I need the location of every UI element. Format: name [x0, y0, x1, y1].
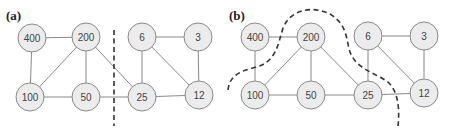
- node-label: 200: [303, 32, 320, 43]
- node-50: 50: [72, 83, 100, 111]
- node-label: 6: [139, 32, 145, 43]
- node-200: 200: [297, 23, 325, 51]
- node-label: 50: [305, 90, 317, 101]
- panel-label-b: (b): [229, 8, 245, 23]
- graph-partition-diagram: (a) 40020063100502512 (b) 40020063100502…: [0, 0, 453, 129]
- panel-a: (a) 40020063100502512: [6, 8, 213, 126]
- node-label: 25: [136, 92, 148, 103]
- node-100: 100: [241, 81, 269, 109]
- node-3: 3: [410, 22, 438, 50]
- node-label: 400: [24, 33, 41, 44]
- node-3: 3: [184, 23, 212, 51]
- node-50: 50: [297, 81, 325, 109]
- node-label: 50: [80, 92, 92, 103]
- node-label: 400: [247, 32, 264, 43]
- node-25: 25: [354, 81, 382, 109]
- node-label: 25: [362, 90, 374, 101]
- panel-label-a: (a): [6, 8, 21, 23]
- node-label: 3: [421, 31, 427, 42]
- node-label: 200: [78, 32, 95, 43]
- node-400: 400: [18, 24, 46, 52]
- node-12: 12: [410, 79, 438, 107]
- node-label: 3: [195, 32, 201, 43]
- node-400: 400: [241, 23, 269, 51]
- node-label: 12: [193, 90, 205, 101]
- node-200: 200: [72, 23, 100, 51]
- node-label: 100: [22, 92, 39, 103]
- node-label: 6: [365, 31, 371, 42]
- node-label: 12: [418, 88, 430, 99]
- node-25: 25: [128, 83, 156, 111]
- node-label: 100: [247, 90, 264, 101]
- edges-b: [255, 36, 424, 95]
- node-6: 6: [354, 22, 382, 50]
- node-100: 100: [16, 83, 44, 111]
- panel-b: (b) 40020063100502512: [228, 8, 438, 126]
- node-6: 6: [128, 23, 156, 51]
- node-12: 12: [185, 81, 213, 109]
